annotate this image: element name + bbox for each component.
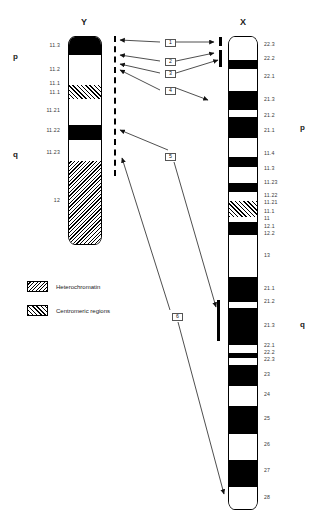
callout-box-3[interactable]: 3: [165, 70, 176, 78]
band-label-y-11.22: 11.22: [30, 127, 60, 133]
band-label-x-21.2: 21.2: [264, 298, 275, 304]
band-label-x-21.2: 21.2: [264, 112, 275, 118]
band-y-11.22: [69, 125, 101, 140]
callout-box-1[interactable]: 1: [165, 39, 176, 47]
band-label-x-11.21: 11.21: [264, 199, 278, 205]
band-label-x-26: 26: [264, 441, 270, 447]
arm-label-y-p: p: [13, 52, 18, 61]
band-label-x-11: 11: [264, 215, 270, 221]
arrow-3-left: [120, 64, 160, 73]
arrow-1-left: [120, 40, 160, 42]
legend-item-het: Heterochromatin: [27, 281, 100, 292]
band-label-y-11.21: 11.21: [30, 107, 60, 113]
chromosome-y-title: Y: [81, 17, 88, 27]
band-label-y-11.3: 11.3: [30, 42, 60, 48]
legend-swatch-cen: [27, 305, 48, 316]
band-y-11.21: [69, 99, 101, 125]
band-x-21.3: [229, 308, 257, 345]
band-x-22.2: [229, 60, 257, 69]
band-x-21.1: [229, 277, 257, 302]
x-marker-bar-3: [217, 300, 220, 341]
band-label-x-22.1: 22.1: [264, 73, 275, 79]
band-x-22.1: [229, 345, 257, 353]
band-label-x-11.1: 11.1: [264, 208, 275, 214]
chromosome-y-outline: [68, 36, 102, 245]
band-x-12.2: [229, 222, 257, 235]
legend-label-het: Heterochromatin: [56, 284, 100, 290]
callout-box-2[interactable]: 2: [165, 58, 176, 66]
x-marker-bar-1: [219, 37, 222, 46]
band-label-x-11.23: 11.23: [264, 179, 278, 185]
callout-box-5[interactable]: 5: [165, 153, 176, 161]
band-label-x-11.4: 11.4: [264, 150, 275, 156]
band-x-28: [229, 487, 257, 510]
arm-label-x-q: q: [300, 320, 305, 329]
chromosome-x-ideogram: [228, 36, 258, 510]
arrow-6-left: [122, 158, 170, 310]
band-x-24: [229, 386, 257, 406]
band-label-x-21.1: 21.1: [264, 127, 275, 133]
band-y-12: [69, 161, 101, 245]
band-label-x-12.1: 12.1: [264, 223, 275, 229]
band-label-x-22.1: 22.1: [264, 342, 275, 348]
band-label-x-12.2: 12.2: [264, 230, 275, 236]
band-x-27: [229, 460, 257, 487]
band-y-11.1: [69, 85, 101, 99]
x-marker-bar-2: [219, 50, 222, 67]
band-x-22.1: [229, 69, 257, 91]
legend-item-cen: Centromeric regions: [27, 305, 110, 316]
band-label-x-11.22: 11.22: [264, 192, 278, 198]
band-label-x-24: 24: [264, 391, 270, 397]
band-label-y-11.2: 11.2: [30, 66, 60, 72]
arrow-2-right: [176, 53, 214, 61]
band-label-x-21.3: 21.3: [264, 96, 275, 102]
band-x-22.3: [229, 358, 257, 365]
band-label-x-21.1: 21.1: [264, 285, 275, 291]
y-region-dashed-bar: [114, 36, 116, 176]
band-x-11.3: [229, 157, 257, 167]
band-x-11.4: [229, 138, 257, 157]
band-x-13: [229, 235, 257, 277]
chromosome-x-title: X: [240, 17, 247, 27]
band-x-11.22: [229, 183, 257, 192]
chromosome-comparison-figure: Y X pq 11.311.211.111.111.2111.2211.2312…: [0, 0, 326, 527]
callout-box-4[interactable]: 4: [165, 87, 176, 95]
arm-label-y-q: q: [13, 150, 18, 159]
arrow-5-right: [174, 162, 216, 307]
chromosome-y-ideogram: [68, 36, 102, 245]
arrow-3-right: [176, 60, 218, 73]
band-label-x-28: 28: [264, 494, 270, 500]
arrow-5-left: [120, 130, 168, 150]
band-label-x-22.2: 22.2: [264, 55, 275, 61]
band-y-11.23: [69, 140, 101, 161]
band-label-x-22.3: 22.3: [264, 356, 275, 362]
band-x-23: [229, 365, 257, 386]
band-label-x-11.3: 11.3: [264, 165, 275, 171]
band-label-y-11.1: 11.1: [30, 80, 60, 86]
band-x-21.3: [229, 91, 257, 110]
arrow-4-left: [120, 70, 160, 90]
arrow-6-right: [178, 322, 224, 494]
band-label-y-12: 12: [30, 197, 60, 203]
band-label-x-25: 25: [264, 415, 270, 421]
callout-box-6[interactable]: 6: [172, 313, 183, 321]
band-x-11.21: [229, 192, 257, 201]
arrow-2-left: [120, 55, 160, 61]
band-label-y-11.1: 11.1: [30, 89, 60, 95]
chromosome-x-outline: [228, 36, 258, 510]
band-x-26: [229, 434, 257, 460]
arm-label-x-p: p: [300, 123, 305, 132]
band-label-y-11.23: 11.23: [30, 149, 60, 155]
arrow-4-right: [176, 88, 208, 100]
band-label-x-21.3: 21.3: [264, 322, 275, 328]
band-y-11.2: [69, 55, 101, 85]
band-label-x-22.3: 22.3: [264, 41, 275, 47]
legend-swatch-het: [27, 281, 48, 292]
band-x-22.3: [229, 37, 257, 60]
band-x-11.1: [229, 201, 257, 217]
band-x-21.1: [229, 117, 257, 138]
band-label-x-13: 13: [264, 252, 270, 258]
band-y-11.3: [69, 37, 101, 55]
band-x-25: [229, 406, 257, 434]
band-label-x-27: 27: [264, 467, 270, 473]
